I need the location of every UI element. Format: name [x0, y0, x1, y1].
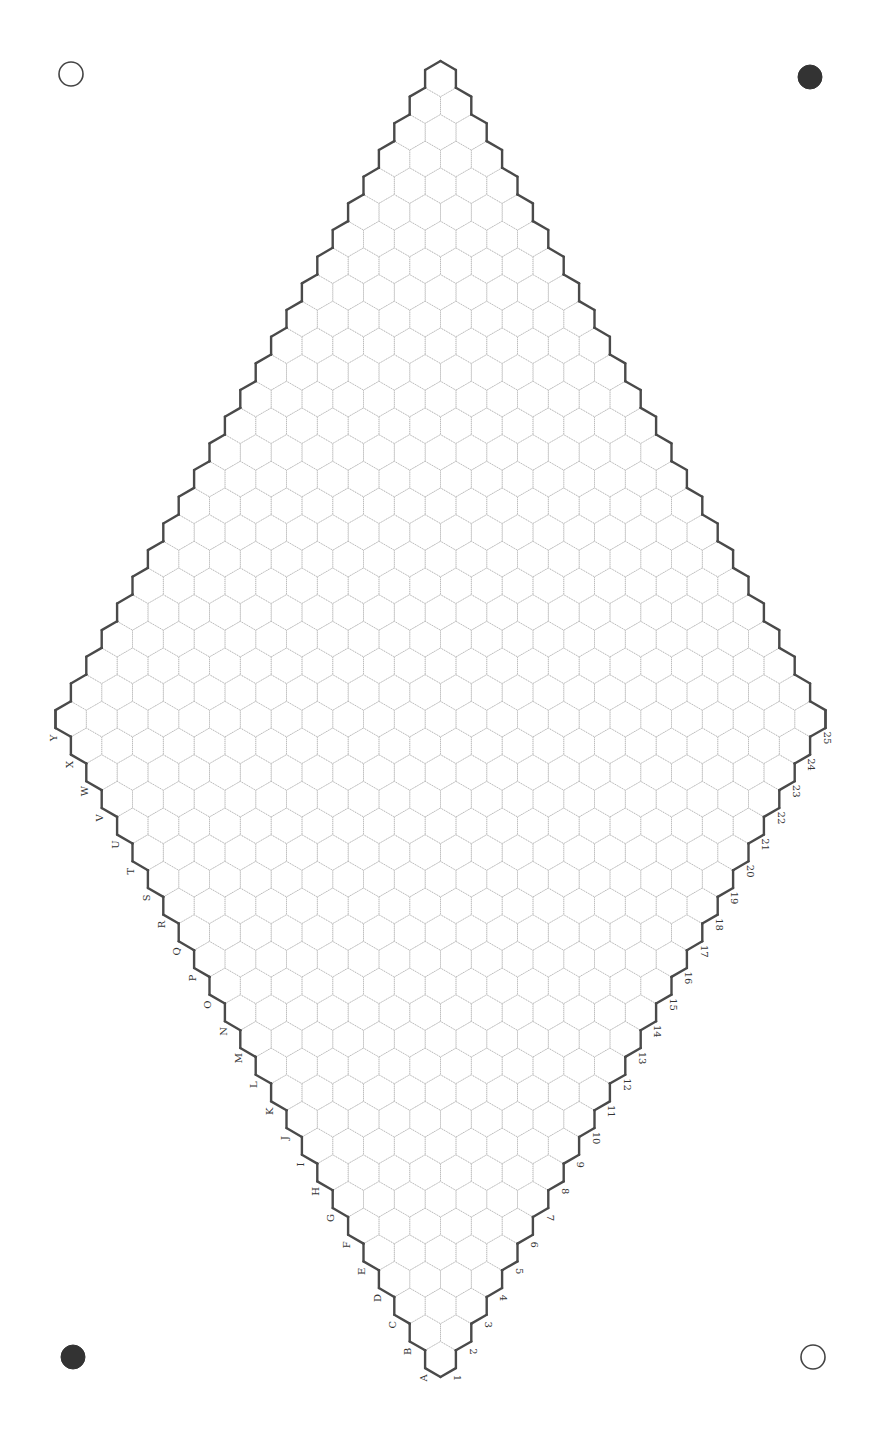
column-label: 21	[760, 838, 771, 851]
column-label: 12	[622, 1078, 633, 1091]
row-label: E	[356, 1268, 367, 1275]
row-label: R	[156, 920, 167, 928]
row-label: A	[418, 1374, 429, 1383]
row-label: K	[264, 1107, 275, 1115]
row-label: O	[202, 1000, 213, 1008]
column-label: 24	[806, 758, 817, 771]
column-label: 7	[545, 1215, 556, 1221]
column-label: 18	[714, 918, 725, 931]
row-label: F	[341, 1241, 352, 1248]
column-label: 1	[452, 1375, 463, 1381]
corner-marker-bottom-right-open-circle-icon	[801, 1345, 825, 1369]
corner-marker-top-left-open-circle-icon	[59, 62, 83, 86]
row-label: G	[325, 1214, 336, 1222]
column-label: 19	[729, 892, 740, 905]
column-label: 11	[606, 1105, 617, 1118]
column-label: 23	[791, 785, 802, 798]
row-label: T	[125, 868, 136, 875]
corner-marker-bottom-left-filled-circle-icon	[61, 1345, 85, 1369]
column-label: 17	[699, 945, 710, 958]
corner-marker-top-right-filled-circle-icon	[798, 65, 822, 89]
column-label: 9	[575, 1161, 586, 1167]
row-label: V	[94, 814, 105, 823]
row-label: Y	[48, 734, 59, 742]
column-label: 14	[652, 1025, 663, 1038]
column-label: 3	[483, 1322, 494, 1328]
column-label: 15	[668, 998, 679, 1011]
column-label: 22	[776, 812, 787, 825]
row-label: U	[110, 840, 121, 848]
column-label: 6	[529, 1242, 540, 1248]
column-label: 4	[498, 1295, 509, 1301]
column-label: 16	[683, 972, 694, 985]
row-label: N	[218, 1027, 229, 1036]
row-label: L	[248, 1081, 259, 1088]
column-label: 8	[560, 1188, 571, 1194]
row-label: C	[387, 1321, 398, 1329]
row-label: H	[310, 1187, 321, 1196]
row-label: S	[141, 894, 152, 901]
column-label: 10	[591, 1132, 602, 1145]
row-label: I	[295, 1163, 306, 1167]
row-label: J	[279, 1136, 290, 1141]
row-label: D	[372, 1294, 383, 1302]
column-label: 13	[637, 1052, 648, 1065]
row-label: Q	[171, 947, 182, 955]
column-label: 20	[745, 865, 756, 878]
row-label: X	[64, 760, 75, 768]
column-label: 25	[822, 732, 833, 745]
row-label: M	[233, 1053, 244, 1063]
row-label: B	[402, 1348, 413, 1355]
row-label: W	[79, 785, 90, 796]
row-label: P	[187, 974, 198, 981]
board-cells[interactable]	[56, 61, 826, 1377]
hex-board[interactable]: A1B2C3D4E5F6G7H8I9J10K11L12M13N14O15P16Q…	[0, 0, 870, 1436]
column-label: 2	[468, 1348, 479, 1354]
column-label: 5	[514, 1268, 525, 1274]
